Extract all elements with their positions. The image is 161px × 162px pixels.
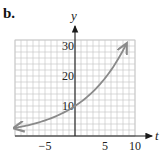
x-tick-label: 10	[129, 139, 141, 153]
x-tick-label: 5	[102, 139, 108, 153]
x-axis-label: t	[155, 128, 159, 143]
x-tick-label: −5	[39, 139, 52, 153]
y-tick-label: 30	[62, 39, 74, 53]
y-axis-label: y	[69, 8, 77, 23]
y-tick-label: 20	[62, 69, 74, 83]
exponential-chart: ty−5510102030	[0, 0, 161, 162]
